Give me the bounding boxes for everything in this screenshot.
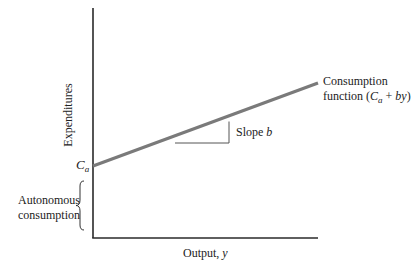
function-line-1: Consumption bbox=[323, 74, 411, 89]
function-c: C bbox=[370, 89, 378, 103]
x-axis-label: Output, y bbox=[183, 246, 228, 260]
consumption-function-label: Consumption function (Ca + by) bbox=[323, 74, 411, 108]
function-by: by bbox=[395, 89, 406, 103]
function-line-2: function (Ca + by) bbox=[323, 89, 411, 108]
autonomous-line-2: consumption bbox=[18, 208, 80, 223]
function-close: ) bbox=[407, 89, 411, 103]
autonomous-consumption-label: Autonomous consumption bbox=[18, 193, 80, 223]
intercept-label: Ca bbox=[76, 158, 89, 176]
x-axis-variable: y bbox=[222, 246, 227, 260]
consumption-function-line bbox=[93, 83, 318, 166]
slope-text: Slope bbox=[236, 125, 266, 139]
intercept-subscript: a bbox=[85, 164, 90, 174]
x-axis-label-text: Output, bbox=[183, 246, 222, 260]
intercept-main: C bbox=[76, 157, 85, 172]
slope-variable: b bbox=[266, 125, 272, 139]
y-axis-label: Expenditures bbox=[61, 83, 75, 146]
autonomous-line-1: Autonomous bbox=[18, 193, 80, 208]
consumption-function-diagram: Expenditures Output, y Ca Autonomous con… bbox=[0, 0, 417, 267]
function-prefix: function ( bbox=[323, 89, 370, 103]
slope-label: Slope b bbox=[236, 125, 272, 139]
function-plus: + bbox=[383, 89, 396, 103]
